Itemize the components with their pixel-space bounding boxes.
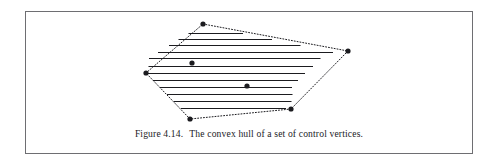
figure-page: Figure 4.14.The convex hull of a set of … [0, 0, 496, 168]
caption-label: Figure 4.14. [135, 128, 183, 139]
caption-text: The convex hull of a set of control vert… [189, 128, 363, 139]
figure-caption: Figure 4.14.The convex hull of a set of … [25, 128, 473, 139]
